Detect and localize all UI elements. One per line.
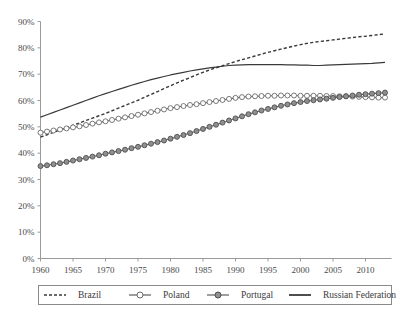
- series-marker-poland: [259, 94, 264, 99]
- x-tick-label: 1970: [97, 265, 116, 275]
- legend-label: Poland: [163, 290, 190, 300]
- series-marker-portugal: [149, 141, 154, 146]
- series-marker-portugal: [311, 98, 316, 103]
- series-marker-portugal: [279, 103, 284, 108]
- series-marker-portugal: [337, 95, 342, 100]
- series-marker-poland: [97, 120, 102, 125]
- series-marker-poland: [253, 94, 258, 99]
- y-tick-label: 10%: [18, 227, 35, 237]
- series-marker-portugal: [110, 150, 115, 155]
- series-marker-poland: [51, 128, 56, 133]
- legend-label: Brazil: [78, 290, 102, 300]
- series-marker-portugal: [168, 136, 173, 141]
- series-marker-poland: [272, 93, 277, 98]
- series-marker-portugal: [227, 118, 232, 123]
- legend-label: Russian Federation: [323, 290, 396, 300]
- series-marker-poland: [77, 124, 82, 129]
- series-marker-portugal: [97, 153, 102, 158]
- series-marker-portugal: [103, 151, 108, 156]
- series-marker-portugal: [357, 92, 362, 97]
- legend-marker-symbol: [215, 292, 221, 298]
- series-marker-portugal: [318, 97, 323, 102]
- series-marker-poland: [279, 93, 284, 98]
- series-marker-portugal: [51, 162, 56, 167]
- line-chart: 0%10%20%30%40%50%60%70%80%90% 1960196519…: [0, 0, 405, 317]
- y-tick-label: 60%: [18, 96, 35, 106]
- series-marker-poland: [90, 121, 95, 126]
- series-marker-portugal: [38, 164, 43, 169]
- series-marker-poland: [214, 99, 219, 104]
- series-marker-portugal: [298, 100, 303, 105]
- series-marker-portugal: [201, 126, 206, 131]
- series-marker-portugal: [129, 146, 134, 151]
- y-tick-label: 30%: [18, 175, 35, 185]
- y-tick-label: 0%: [23, 254, 36, 264]
- series-marker-poland: [181, 104, 186, 109]
- series-marker-poland: [240, 95, 245, 100]
- series-marker-poland: [246, 94, 251, 99]
- series-marker-portugal: [324, 96, 329, 101]
- series-marker-poland: [110, 117, 115, 122]
- y-tick-label: 20%: [18, 201, 35, 211]
- legend-label: Portugal: [241, 290, 274, 300]
- series-marker-portugal: [162, 138, 167, 143]
- series-marker-portugal: [344, 94, 349, 99]
- series-marker-portugal: [246, 112, 251, 117]
- series-marker-poland: [129, 114, 134, 119]
- series-marker-poland: [162, 107, 167, 112]
- y-tick-label: 80%: [18, 43, 35, 53]
- series-marker-portugal: [285, 102, 290, 107]
- series-marker-portugal: [45, 163, 50, 168]
- series-marker-portugal: [71, 158, 76, 163]
- series-marker-portugal: [123, 147, 128, 152]
- series-marker-portugal: [194, 129, 199, 134]
- series-marker-portugal: [188, 131, 193, 136]
- series-marker-poland: [38, 130, 43, 135]
- legend-marker-symbol: [137, 292, 143, 298]
- series-marker-portugal: [220, 120, 225, 125]
- series-marker-portugal: [142, 143, 147, 148]
- series-marker-poland: [136, 112, 141, 117]
- x-tick-label: 2010: [357, 265, 376, 275]
- series-marker-portugal: [292, 101, 297, 106]
- series-marker-portugal: [272, 105, 277, 110]
- series-marker-portugal: [376, 91, 381, 96]
- chart-legend: BrazilPolandPortugalRussian Federation: [39, 286, 397, 305]
- series-marker-portugal: [116, 149, 121, 154]
- series-marker-poland: [116, 116, 121, 121]
- series-marker-portugal: [305, 99, 310, 104]
- series-marker-poland: [201, 101, 206, 106]
- x-tick-label: 1980: [162, 265, 181, 275]
- series-marker-poland: [71, 125, 76, 130]
- series-marker-poland: [207, 100, 212, 105]
- series-marker-portugal: [259, 108, 264, 113]
- series-marker-poland: [383, 95, 388, 100]
- series-marker-portugal: [370, 91, 375, 96]
- series-marker-poland: [123, 115, 128, 120]
- series-marker-portugal: [90, 154, 95, 159]
- x-tick-label: 1990: [227, 265, 246, 275]
- series-marker-poland: [103, 119, 108, 124]
- series-marker-poland: [142, 111, 147, 116]
- series-marker-portugal: [77, 157, 82, 162]
- x-tick-label: 2000: [292, 265, 311, 275]
- series-marker-poland: [188, 102, 193, 107]
- series-marker-poland: [58, 127, 63, 132]
- series-marker-portugal: [84, 155, 89, 160]
- series-marker-poland: [233, 95, 238, 100]
- y-tick-label: 40%: [18, 148, 35, 158]
- x-tick-label: 1985: [194, 265, 213, 275]
- series-marker-poland: [175, 105, 180, 110]
- series-marker-portugal: [331, 95, 336, 100]
- series-marker-portugal: [155, 140, 160, 145]
- series-marker-poland: [298, 93, 303, 98]
- series-marker-portugal: [175, 134, 180, 139]
- chart-container: 0%10%20%30%40%50%60%70%80%90% 1960196519…: [0, 0, 405, 317]
- series-marker-portugal: [64, 159, 69, 164]
- x-tick-label: 1965: [64, 265, 83, 275]
- series-marker-poland: [194, 102, 199, 107]
- series-marker-poland: [155, 108, 160, 113]
- x-tick-label: 2005: [324, 265, 343, 275]
- series-marker-poland: [168, 106, 173, 111]
- series-marker-poland: [292, 93, 297, 98]
